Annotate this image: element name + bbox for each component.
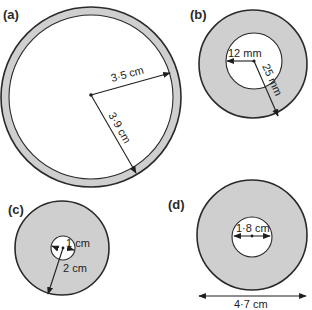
annulus-figure: (a) 3·5 cm 3·9 cm (b) 12 mm 25 mm (c) 1 … xyxy=(0,0,312,310)
panel-c-inner-radius-label: 1 cm xyxy=(66,237,90,249)
panel-a-inner-circle xyxy=(9,15,173,179)
panel-c-outer-radius-label: 2 cm xyxy=(63,262,87,274)
panel-c: (c) 1 cm 2 cm xyxy=(8,201,109,295)
panel-d-label: (d) xyxy=(168,197,185,212)
panel-c-label: (c) xyxy=(8,202,24,217)
panel-d-inner-diameter-label: 1·8 cm xyxy=(236,222,270,234)
panel-b-inner-radius-label: 12 mm xyxy=(228,47,262,59)
panel-d-outer-diameter-label: 4·7 cm xyxy=(234,298,268,310)
panel-d: (d) 1·8 cm 4·7 cm xyxy=(168,180,307,310)
panel-b: (b) 12 mm 25 mm xyxy=(190,7,307,118)
panel-b-label: (b) xyxy=(190,7,207,22)
panel-a-label: (a) xyxy=(3,7,19,22)
panel-a: (a) 3·5 cm 3·9 cm xyxy=(1,7,181,187)
